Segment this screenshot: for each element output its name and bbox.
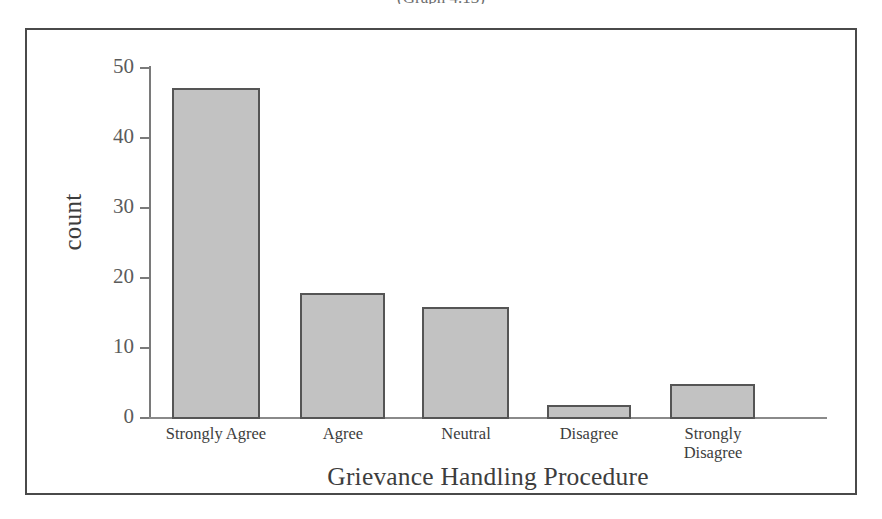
- y-tick-label-50: 50: [90, 56, 134, 77]
- y-tick-mark-10: [140, 347, 149, 349]
- y-tick-label-30: 30: [90, 196, 134, 217]
- y-tick-mark-20: [140, 277, 149, 279]
- y-tick-mark-0: [140, 417, 149, 419]
- x-tick-label-line: Agree: [287, 424, 399, 443]
- x-axis-title: Grievance Handling Procedure: [149, 462, 827, 492]
- x-tick-label-line: Neutral: [410, 424, 522, 443]
- x-tick-label-line: Disagree: [657, 443, 769, 462]
- plot-area: 50 40 30 20 10 0 count Strongly: [27, 30, 859, 497]
- y-axis-line: [149, 66, 151, 418]
- x-tick-label-strongly-disagree: Strongly Disagree: [657, 424, 769, 463]
- bar-disagree: [547, 405, 631, 419]
- x-tick-label-line: Strongly: [657, 424, 769, 443]
- y-tick-label-20: 20: [90, 266, 134, 287]
- bar-agree: [300, 293, 385, 419]
- bar-strongly-disagree: [670, 384, 755, 419]
- y-tick-mark-50: [140, 67, 149, 69]
- x-tick-label-agree: Agree: [287, 424, 399, 443]
- x-tick-label-line: Strongly Agree: [156, 424, 276, 443]
- y-tick-label-40: 40: [90, 126, 134, 147]
- y-tick-label-10: 10: [90, 336, 134, 357]
- y-tick-label-0: 0: [90, 406, 134, 427]
- bar-strongly-agree: [172, 88, 260, 419]
- figure-frame: 50 40 30 20 10 0 count Strongly: [25, 28, 857, 495]
- top-caption-fragment: (Graph 4.13): [0, 0, 882, 4]
- y-tick-mark-40: [140, 137, 149, 139]
- x-tick-label-disagree: Disagree: [533, 424, 645, 443]
- y-axis-title: count: [59, 162, 87, 282]
- x-tick-label-line: Disagree: [533, 424, 645, 443]
- y-tick-mark-30: [140, 207, 149, 209]
- bar-neutral: [422, 307, 509, 419]
- x-tick-label-strongly-agree: Strongly Agree: [156, 424, 276, 443]
- x-tick-label-neutral: Neutral: [410, 424, 522, 443]
